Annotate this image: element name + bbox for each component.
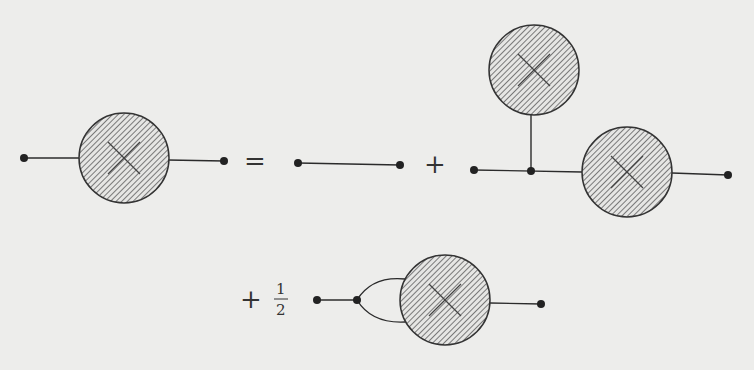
propagator-line <box>168 160 224 161</box>
plus-sign: + <box>424 149 446 179</box>
fraction-denominator: 2 <box>276 301 286 319</box>
term-lhs <box>20 113 228 203</box>
term-bare-propagator <box>294 159 404 169</box>
loop-upper-arc <box>357 279 405 300</box>
vertex-dot <box>313 296 321 304</box>
vertex-junction-dot <box>353 296 361 304</box>
equals-sign: = <box>244 146 266 176</box>
plus-sign: + <box>240 284 262 314</box>
term-tadpole <box>470 25 732 217</box>
hatched-blob-top <box>489 25 579 115</box>
diagram-canvas: = + + 1 2 <box>0 0 754 370</box>
vertex-dot <box>537 300 545 308</box>
propagator-line <box>490 303 541 304</box>
hatched-blob-bottom <box>582 127 672 217</box>
vertex-dot <box>724 171 732 179</box>
vertex-dot <box>220 157 228 165</box>
vertex-dot <box>470 166 478 174</box>
vertex-dot <box>20 154 28 162</box>
fraction-numerator: 1 <box>276 280 286 298</box>
hatched-blob <box>400 255 490 345</box>
vertex-dot <box>294 159 302 167</box>
vertex-dot <box>396 161 404 169</box>
loop-lower-arc <box>357 300 405 322</box>
hatched-blob <box>79 113 169 203</box>
propagator-line <box>298 163 400 165</box>
propagator-line <box>672 173 728 175</box>
vertex-junction-dot <box>527 167 535 175</box>
fraction-coefficient: 1 2 <box>274 280 288 319</box>
term-loop <box>313 255 545 345</box>
